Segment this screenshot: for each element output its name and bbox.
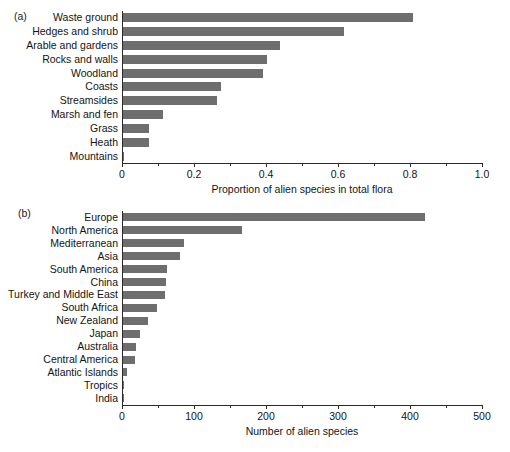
x-tick-label: 0 xyxy=(119,410,125,422)
bar-row: Atlantic Islands xyxy=(122,366,482,379)
bar-row: China xyxy=(122,276,482,289)
bar-row: Coasts xyxy=(122,80,482,94)
bar xyxy=(123,330,140,338)
x-tick-minor xyxy=(230,163,231,166)
plot-area-b: EuropeNorth AmericaMediterraneanAsiaSout… xyxy=(122,211,482,405)
category-label: Australia xyxy=(77,341,118,352)
bar xyxy=(123,317,148,325)
x-tick xyxy=(122,405,123,409)
bar-row: Arable and gardens xyxy=(122,39,482,53)
category-label: China xyxy=(91,277,118,288)
x-tick-label: 500 xyxy=(473,410,491,422)
bar xyxy=(123,41,280,50)
category-label: North America xyxy=(51,225,118,236)
bar xyxy=(123,291,165,299)
x-tick xyxy=(266,163,267,167)
x-tick-label: 400 xyxy=(401,410,419,422)
category-label: Turkey and Middle East xyxy=(8,289,118,300)
plot-area-a: Waste groundHedges and shrubArable and g… xyxy=(122,11,482,163)
x-tick-minor xyxy=(158,405,159,408)
bar xyxy=(123,124,149,133)
bar-row: Central America xyxy=(122,353,482,366)
category-label: New Zealand xyxy=(56,315,118,326)
x-tick-minor xyxy=(230,405,231,408)
bar xyxy=(123,152,124,161)
bar-row: South America xyxy=(122,263,482,276)
category-label: Woodland xyxy=(71,68,118,79)
x-tick-label: 200 xyxy=(257,410,275,422)
x-tick-label: 0 xyxy=(119,168,125,180)
bar xyxy=(123,13,413,22)
category-label: Coasts xyxy=(85,81,118,92)
x-tick-label: 0.6 xyxy=(331,168,346,180)
category-label: Japan xyxy=(89,328,118,339)
x-tick xyxy=(338,163,339,167)
bar xyxy=(123,304,157,312)
x-tick-label: 100 xyxy=(185,410,203,422)
category-label: Europe xyxy=(84,212,118,223)
panel-b-tag: (b) xyxy=(18,207,31,219)
x-axis-title-b: Number of alien species xyxy=(122,425,482,437)
panel-a-tag: (a) xyxy=(14,10,27,22)
x-tick-minor xyxy=(158,163,159,166)
x-tick-label: 0.2 xyxy=(187,168,202,180)
category-label: Central America xyxy=(43,354,118,365)
category-label: Mediterranean xyxy=(50,238,118,249)
bar-rows-b: EuropeNorth AmericaMediterraneanAsiaSout… xyxy=(122,211,482,405)
bar-rows-a: Waste groundHedges and shrubArable and g… xyxy=(122,11,482,163)
category-label: Tropics xyxy=(84,380,118,391)
bar xyxy=(123,213,425,221)
x-tick xyxy=(410,163,411,167)
bar xyxy=(123,82,221,91)
x-tick xyxy=(410,405,411,409)
bar xyxy=(123,381,124,389)
x-tick-label: 300 xyxy=(329,410,347,422)
x-tick-minor xyxy=(374,405,375,408)
bar-row: Rocks and walls xyxy=(122,52,482,66)
bar-row: Mountains xyxy=(122,149,482,163)
category-label: India xyxy=(95,393,118,404)
bar xyxy=(123,110,163,119)
category-label: Waste ground xyxy=(53,12,118,23)
x-tick xyxy=(482,405,483,409)
x-tick-label: 1.0 xyxy=(475,168,490,180)
category-label: Marsh and fen xyxy=(51,109,118,120)
x-tick xyxy=(122,163,123,167)
category-label: Mountains xyxy=(70,151,118,162)
category-label: Hedges and shrub xyxy=(32,26,118,37)
bar xyxy=(123,368,127,376)
x-tick xyxy=(482,163,483,167)
category-label: South America xyxy=(50,264,118,275)
x-tick xyxy=(194,163,195,167)
bar xyxy=(123,252,180,260)
bar xyxy=(123,138,149,147)
bar xyxy=(123,69,263,78)
figure-alien-species: (a) Waste groundHedges and shrubArable a… xyxy=(0,0,510,452)
bar-row: Europe xyxy=(122,211,482,224)
bar xyxy=(123,239,184,247)
bar-row: Streamsides xyxy=(122,94,482,108)
bar xyxy=(123,96,217,105)
bar-row: Woodland xyxy=(122,66,482,80)
bar xyxy=(123,265,167,273)
bar-row: Grass xyxy=(122,122,482,136)
bar-row: Heath xyxy=(122,135,482,149)
bar-row: Marsh and fen xyxy=(122,108,482,122)
bar-row: India xyxy=(122,392,482,405)
x-tick xyxy=(338,405,339,409)
x-tick-minor xyxy=(446,405,447,408)
category-label: Arable and gardens xyxy=(26,40,118,51)
bar xyxy=(123,343,136,351)
bar-row: South Africa xyxy=(122,301,482,314)
bar xyxy=(123,278,166,286)
category-label: South Africa xyxy=(61,302,118,313)
chart-panel-a: (a) Waste groundHedges and shrubArable a… xyxy=(0,0,510,196)
chart-panel-b: (b) EuropeNorth AmericaMediterraneanAsia… xyxy=(0,196,510,452)
x-tick-minor xyxy=(302,163,303,166)
x-tick xyxy=(266,405,267,409)
bar xyxy=(123,55,267,64)
bar xyxy=(123,226,242,234)
x-tick-minor xyxy=(446,163,447,166)
bar-row: Tropics xyxy=(122,379,482,392)
category-label: Streamsides xyxy=(60,95,118,106)
